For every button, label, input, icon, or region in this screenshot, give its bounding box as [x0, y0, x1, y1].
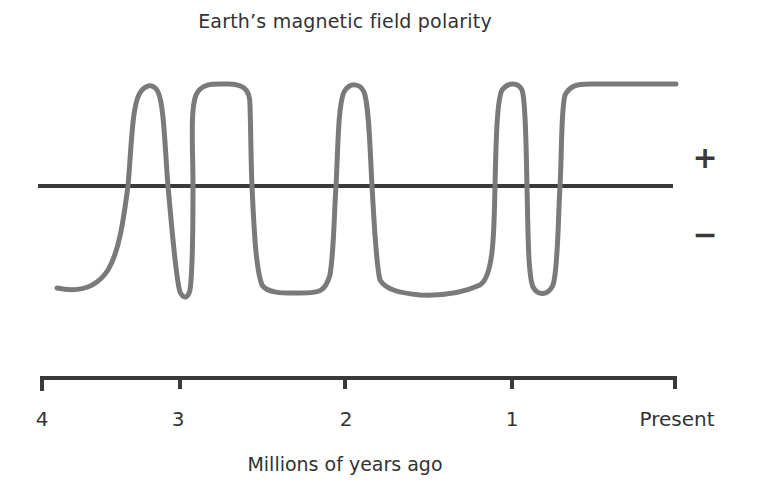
x-tick-label-present: Present [639, 407, 714, 431]
polarity-curve [57, 84, 676, 297]
negative-polarity-sign: − [692, 220, 717, 250]
x-tick-label-4: 4 [36, 407, 49, 431]
x-tick-label-2: 2 [340, 407, 353, 431]
positive-polarity-sign: + [692, 143, 717, 173]
x-tick-label-3: 3 [172, 407, 185, 431]
x-tick-label-1: 1 [506, 407, 519, 431]
x-axis-label: Millions of years ago [0, 453, 690, 475]
